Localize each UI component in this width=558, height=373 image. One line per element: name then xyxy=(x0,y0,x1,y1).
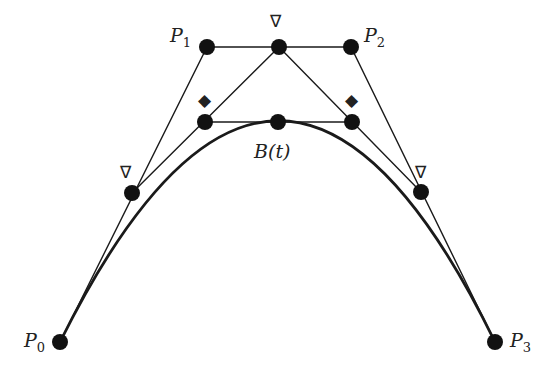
level2-point-right xyxy=(344,114,360,130)
level2-point-left xyxy=(197,114,213,130)
curve-point-bt xyxy=(270,114,286,130)
level1-point-left xyxy=(124,185,140,201)
nabla-marker-left: ∇ xyxy=(119,162,132,182)
nabla-marker-right: ∇ xyxy=(414,162,427,182)
point-p0 xyxy=(52,334,68,350)
bezier-diagram: ∇ ∇ ∇ ◆ ◆ P1 P2 P0 P3 B(t) xyxy=(0,0,558,373)
point-p3 xyxy=(487,334,503,350)
label-p0: P0 xyxy=(23,329,45,355)
level1-point-right xyxy=(413,184,429,200)
level1-point-top xyxy=(271,39,287,55)
label-p1: P1 xyxy=(169,24,191,50)
label-bt: B(t) xyxy=(253,140,290,162)
diamond-marker-right: ◆ xyxy=(345,90,359,110)
nabla-marker-top: ∇ xyxy=(269,11,282,31)
point-p1 xyxy=(199,39,215,55)
label-p2: P2 xyxy=(363,24,385,50)
point-p2 xyxy=(343,39,359,55)
label-p3: P3 xyxy=(509,329,531,355)
diamond-marker-left: ◆ xyxy=(198,90,212,110)
